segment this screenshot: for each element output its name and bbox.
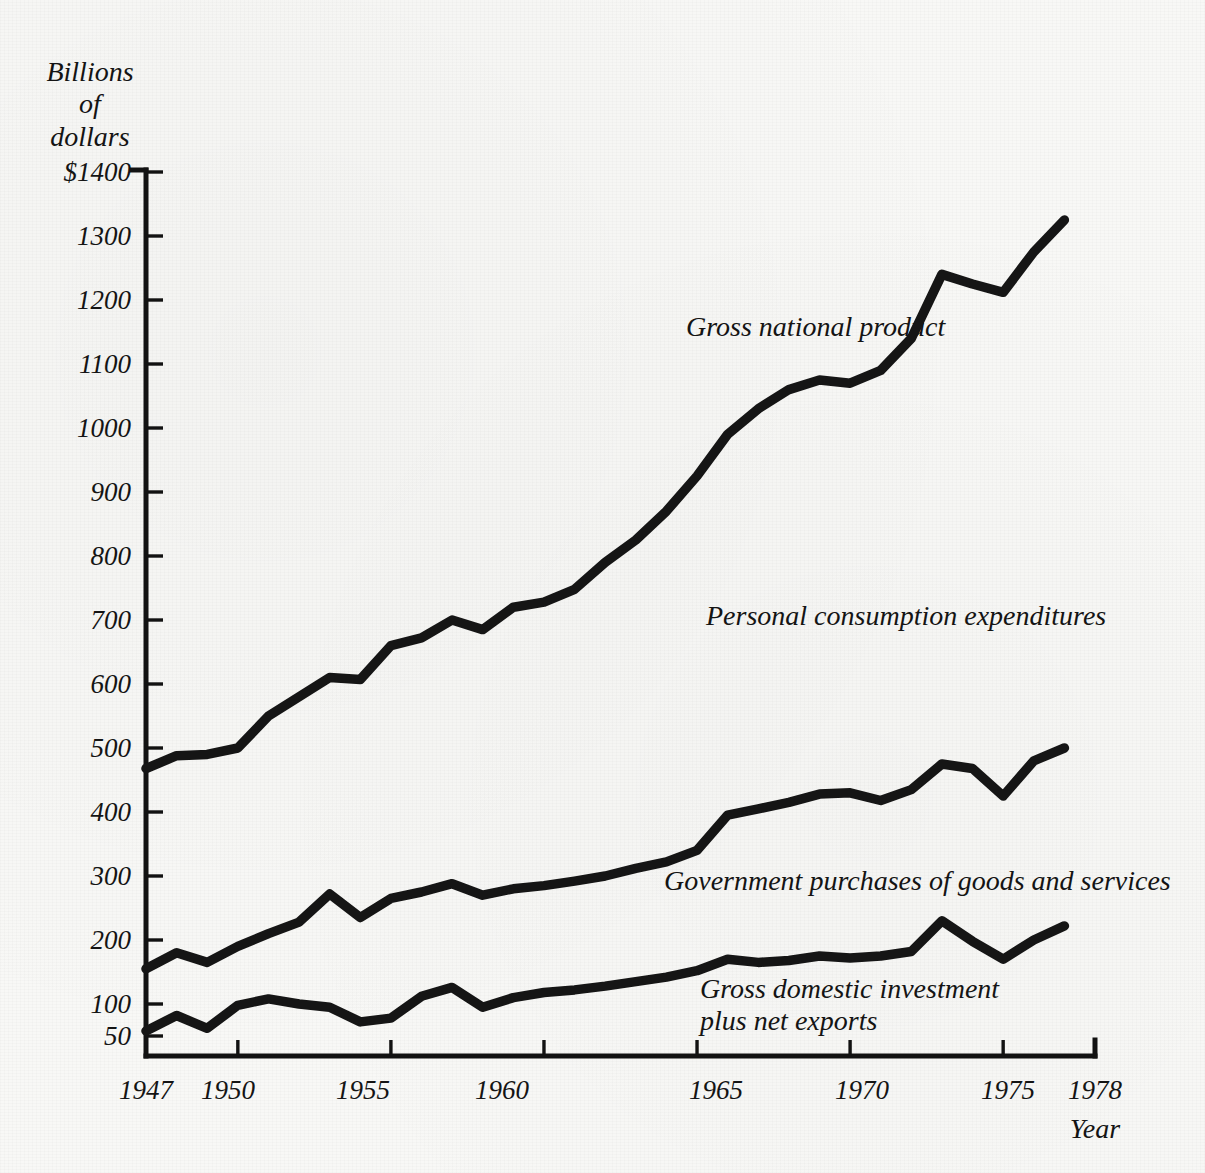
- series-path-gross-domestic-investment-plus-net-exports: [146, 921, 1064, 1031]
- y-tick-marks: [146, 172, 163, 1036]
- gnp-components-line-chart: Billionsofdollars $1400 1300 1200 1100 1…: [0, 0, 1205, 1173]
- series-lines: [146, 220, 1064, 1031]
- series-path-gross-national-product: [146, 220, 1064, 769]
- plot-canvas: [0, 0, 1205, 1173]
